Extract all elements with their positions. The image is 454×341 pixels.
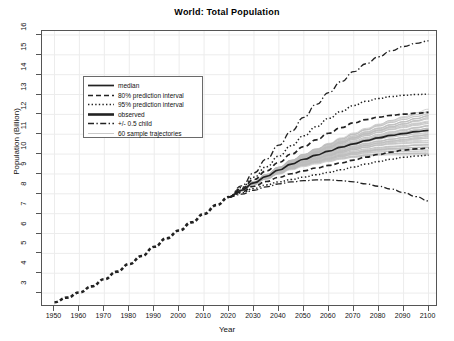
population-projection-chart: World: Total Population 3456789101112131… <box>0 0 454 341</box>
legend-label: 95% prediction interval <box>118 100 184 109</box>
legend-item: 95% prediction interval <box>88 100 198 109</box>
legend-item: observed <box>88 110 198 119</box>
y-tick-mark <box>36 233 41 234</box>
y-tick-mark <box>36 34 41 35</box>
x-tick-mark <box>403 306 404 311</box>
x-tick-mark <box>78 306 79 311</box>
x-tick-mark <box>253 306 254 311</box>
x-tick-mark <box>278 306 279 311</box>
legend-label: +/- 0.5 child <box>118 119 152 128</box>
y-tick-mark <box>36 252 41 253</box>
x-tick-mark <box>378 306 379 311</box>
legend-line-swatch <box>88 91 114 100</box>
y-tick-mark <box>36 272 41 273</box>
x-tick-label: 2100 <box>411 312 445 319</box>
x-tick-mark <box>428 306 429 311</box>
legend-line-swatch <box>88 110 114 119</box>
y-tick-mark <box>36 113 41 114</box>
legend-item: median <box>88 81 198 90</box>
legend-item: 80% prediction interval <box>88 91 198 100</box>
y-tick-mark <box>36 193 41 194</box>
y-tick-label: 3 <box>19 281 28 303</box>
legend-label: 60 sample trajectories <box>118 129 182 138</box>
chart-legend: median80% prediction interval95% predict… <box>83 76 203 138</box>
x-axis-label: Year <box>0 325 454 334</box>
x-tick-mark <box>128 306 129 311</box>
x-tick-mark <box>178 306 179 311</box>
legend-label: observed <box>118 110 145 119</box>
x-tick-mark <box>153 306 154 311</box>
legend-item: +/- 0.5 child <box>88 119 198 128</box>
y-tick-mark <box>36 292 41 293</box>
y-tick-mark <box>36 173 41 174</box>
x-tick-mark <box>228 306 229 311</box>
y-tick-mark <box>36 94 41 95</box>
y-axis-label: Population (Billion) <box>12 22 21 262</box>
x-tick-mark <box>303 306 304 311</box>
legend-label: 80% prediction interval <box>118 91 184 100</box>
plot-svg <box>42 31 436 305</box>
legend-line-swatch <box>88 129 114 138</box>
x-tick-mark <box>103 306 104 311</box>
chart-title: World: Total Population <box>0 7 454 17</box>
x-tick-mark <box>53 306 54 311</box>
legend-line-swatch <box>88 100 114 109</box>
y-tick-mark <box>36 153 41 154</box>
y-tick-label: 4 <box>19 261 28 283</box>
plot-area <box>41 30 437 306</box>
legend-line-swatch <box>88 119 114 128</box>
x-tick-mark <box>203 306 204 311</box>
x-tick-mark <box>328 306 329 311</box>
legend-line-swatch <box>88 81 114 90</box>
y-tick-mark <box>36 133 41 134</box>
y-tick-mark <box>36 74 41 75</box>
x-tick-mark <box>353 306 354 311</box>
legend-item: 60 sample trajectories <box>88 129 198 138</box>
y-tick-mark <box>36 213 41 214</box>
gridlines <box>42 31 436 305</box>
y-tick-mark <box>36 54 41 55</box>
legend-label: median <box>118 81 139 90</box>
